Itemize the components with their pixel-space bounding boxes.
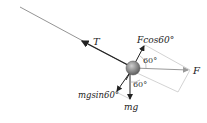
force-diagram: T Fcos60° 60° F 60° mgsin60° mg: [0, 0, 207, 123]
force-label: F: [193, 66, 200, 76]
tension-arrow: [82, 41, 128, 65]
force-diagram-canvas: [0, 0, 207, 123]
f-cos60-label: Fcos60°: [137, 36, 174, 45]
angle-lower-label: 60°: [133, 81, 147, 89]
mg-sin60-label: mgsin60°: [78, 91, 119, 100]
ball: [126, 61, 140, 75]
angle-upper-label: 60°: [143, 57, 157, 65]
force-f-arrow: [133, 68, 188, 70]
tension-label: T: [93, 37, 100, 47]
mg-label: mg: [124, 103, 138, 112]
